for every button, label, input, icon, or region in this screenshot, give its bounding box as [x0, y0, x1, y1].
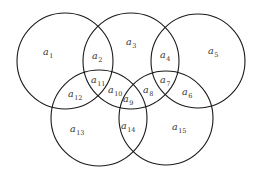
region-label-subscript: 10: [114, 90, 122, 98]
region-label-subscript: 8: [149, 90, 153, 98]
region-label-a3: a3: [126, 36, 136, 50]
region-label-base: a: [68, 88, 74, 99]
region-label-base: a: [172, 121, 178, 132]
region-label-base: a: [108, 84, 114, 95]
region-label-base: a: [70, 123, 76, 134]
region-label-subscript: 3: [132, 42, 136, 50]
region-label-subscript: 6: [188, 92, 192, 100]
region-label-subscript: 9: [129, 99, 133, 107]
venn-diagram: a1a2a3a4a5a6a7a8a9a10a11a12a13a14a15: [0, 0, 259, 175]
region-label-a9: a9: [123, 93, 133, 107]
region-label-subscript: 7: [166, 80, 170, 88]
region-label-subscript: 2: [98, 56, 102, 64]
region-label-base: a: [123, 93, 129, 104]
region-label-subscript: 5: [214, 51, 218, 59]
region-label-base: a: [43, 46, 49, 57]
region-label-base: a: [121, 120, 127, 131]
region-label-base: a: [160, 49, 166, 60]
region-label-base: a: [182, 86, 188, 97]
region-label-a13: a13: [70, 123, 84, 137]
region-label-a1: a1: [43, 46, 53, 60]
region-label-subscript: 4: [166, 55, 170, 63]
region-label-base: a: [160, 74, 166, 85]
set-circle-top-right: [151, 14, 245, 108]
region-label-subscript: 12: [74, 94, 82, 102]
region-label-a14: a14: [121, 120, 135, 134]
region-label-a6: a6: [182, 86, 192, 100]
region-label-subscript: 13: [76, 129, 84, 137]
region-label-subscript: 11: [97, 80, 105, 88]
region-label-a15: a15: [172, 121, 186, 135]
region-label-base: a: [143, 84, 149, 95]
region-label-base: a: [208, 45, 214, 56]
region-label-subscript: 1: [49, 52, 53, 60]
region-label-a10: a10: [108, 84, 122, 98]
region-label-a11: a11: [91, 74, 105, 88]
region-label-base: a: [126, 36, 132, 47]
region-label-subscript: 14: [127, 126, 135, 134]
region-label-a7: a7: [160, 74, 170, 88]
region-label-base: a: [91, 74, 97, 85]
region-label-a4: a4: [160, 49, 170, 63]
region-label-a12: a12: [68, 88, 82, 102]
region-label-a5: a5: [208, 45, 218, 59]
region-label-a8: a8: [143, 84, 153, 98]
region-label-a2: a2: [92, 50, 102, 64]
region-label-subscript: 15: [178, 127, 186, 135]
region-label-base: a: [92, 50, 98, 61]
